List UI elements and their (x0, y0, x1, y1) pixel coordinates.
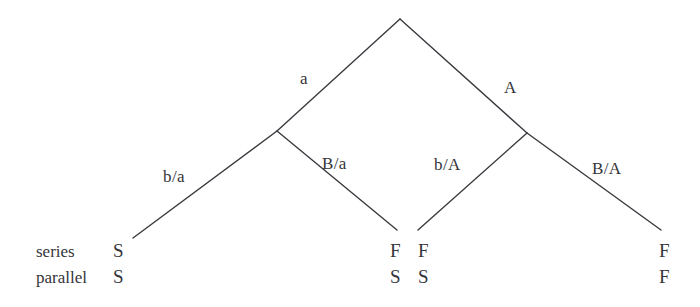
edge-root-right (400, 19, 527, 133)
edge-right-right (527, 133, 661, 230)
edge-left-right (277, 131, 397, 230)
edge-root-left (277, 19, 400, 131)
leaf-3-parallel-value: S (418, 267, 429, 286)
edge-label-b-over-a: b/a (163, 168, 185, 185)
leaf-1-parallel-value: S (113, 267, 124, 286)
edge-left-left (133, 131, 277, 238)
row-label-parallel: parallel (36, 269, 87, 286)
edge-label-B-over-a: B/a (322, 155, 347, 172)
edge-label-A: A (504, 79, 517, 96)
tree-edges-svg (0, 0, 700, 307)
leaf-1-series-value: S (113, 241, 124, 260)
edge-right-left (418, 133, 527, 230)
edge-label-B-over-A: B/A (592, 160, 622, 177)
leaf-4-parallel-value: F (659, 267, 670, 286)
edge-label-b-over-A: b/A (434, 156, 461, 173)
leaf-2-series-value: F (390, 241, 401, 260)
row-label-series: series (36, 243, 75, 260)
leaf-4-series-value: F (659, 241, 670, 260)
leaf-3-series-value: F (418, 241, 429, 260)
decision-tree-figure: a A b/a B/a b/A B/A series parallel S F … (0, 0, 700, 307)
leaf-2-parallel-value: S (390, 267, 401, 286)
edge-label-a: a (300, 70, 308, 87)
